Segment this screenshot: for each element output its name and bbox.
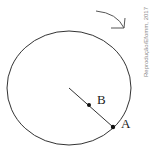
point-a-dot <box>111 125 115 129</box>
radius-line <box>69 88 113 127</box>
rotation-arrow-icon <box>96 11 125 28</box>
label-b: B <box>97 92 106 108</box>
label-a: A <box>121 116 130 132</box>
image-credit: Reprodução/Efomm, 2017 <box>143 7 149 77</box>
circle-diagram <box>0 0 157 151</box>
point-b-dot <box>87 103 91 107</box>
